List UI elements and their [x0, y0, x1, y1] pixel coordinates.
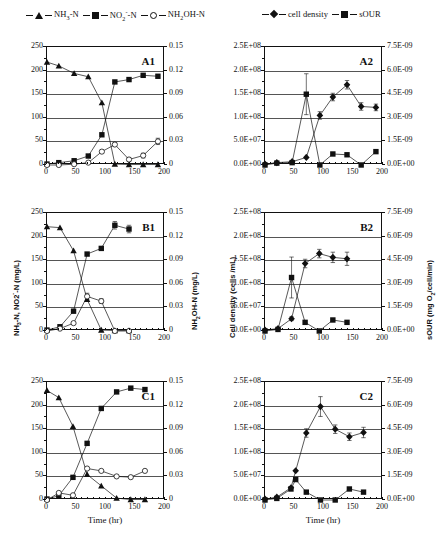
- y-tick-right: [164, 428, 167, 429]
- y-tick-right: [382, 164, 385, 165]
- y-tick-right: [382, 259, 385, 260]
- data-point: [86, 153, 91, 158]
- data-point: [358, 103, 365, 110]
- data-point: [85, 294, 90, 299]
- x-minor-tick: [111, 162, 112, 164]
- figure-root: NH3-NNO2--NNH2OH-N cell densitysOUR A105…: [0, 0, 443, 552]
- data-point: [44, 59, 50, 65]
- x-minor-tick: [129, 497, 130, 499]
- y-tick-label-right: 6.0E-09: [387, 232, 413, 240]
- data-point: [330, 317, 335, 322]
- legend-right-entry-sour: sOUR: [332, 9, 381, 19]
- data-point: [344, 255, 351, 262]
- series-sour: [262, 477, 366, 503]
- y-tick-right: [164, 452, 167, 453]
- y-minor-tick-left: [44, 381, 46, 382]
- data-point: [317, 403, 324, 410]
- x-minor-tick: [117, 328, 118, 330]
- y-tick-label-right: 0.15: [169, 377, 183, 385]
- x-minor-tick: [270, 497, 271, 499]
- legend-label: cell density: [288, 9, 328, 19]
- y-tick-label-left: 0.0E+00: [217, 495, 261, 503]
- x-tick-label: 0: [251, 168, 277, 176]
- x-tick-label: 100: [92, 503, 118, 511]
- x-minor-tick: [317, 497, 318, 499]
- x-minor-tick: [364, 162, 365, 164]
- y-minor-tick-left: [44, 105, 46, 106]
- x-minor-tick: [152, 328, 153, 330]
- x-minor-tick: [270, 162, 271, 164]
- y-minor-tick-left: [44, 212, 46, 213]
- x-minor-tick: [146, 162, 147, 164]
- y-tick-label-right: 1.5E-09: [387, 471, 413, 479]
- y-minor-tick-left: [262, 236, 264, 237]
- x-tick-label: 50: [63, 503, 89, 511]
- y-tick-label-left: 250: [0, 377, 43, 385]
- triangle-marker-icon: [35, 12, 43, 19]
- y-tick-right: [164, 330, 167, 331]
- x-minor-tick: [140, 162, 141, 164]
- y-tick-label-left: 100: [0, 448, 43, 456]
- data-point: [85, 466, 90, 471]
- y-minor-tick-left: [262, 164, 264, 165]
- y-tick-label-right: 0.06: [169, 113, 183, 121]
- x-tick-label: 50: [63, 334, 89, 342]
- y-tick-right: [164, 499, 167, 500]
- y-minor-tick-left: [262, 487, 264, 488]
- x-minor-tick: [58, 497, 59, 499]
- x-minor-tick: [323, 162, 324, 164]
- y-tick-label-left: 200: [0, 66, 43, 74]
- x-tick-label: 0: [33, 503, 59, 511]
- legend-label: NH2OH-N: [168, 9, 205, 21]
- y-tick-label-left: 2.0E+08: [217, 232, 261, 240]
- x-minor-tick: [52, 497, 53, 499]
- x-minor-tick: [135, 328, 136, 330]
- y-tick-label-left: 1.5E+08: [217, 424, 261, 432]
- data-point: [347, 486, 352, 491]
- plot-area-A2: A2: [264, 46, 382, 164]
- y-tick-right: [164, 475, 167, 476]
- x-minor-tick: [46, 497, 47, 499]
- y-minor-tick-left: [262, 452, 264, 453]
- x-minor-tick: [335, 162, 336, 164]
- y-tick-label-right: 0.09: [169, 424, 183, 432]
- x-minor-tick: [370, 162, 371, 164]
- panel-label-B2: B2: [360, 221, 373, 233]
- x-axis-title-right: Time (hr): [243, 515, 403, 525]
- x-minor-tick: [358, 328, 359, 330]
- x-minor-tick: [311, 328, 312, 330]
- x-minor-tick: [152, 497, 153, 499]
- legend-line: [83, 15, 90, 16]
- x-minor-tick: [164, 162, 165, 164]
- y-tick-label-left: 100: [0, 113, 43, 121]
- x-minor-tick: [282, 162, 283, 164]
- y-minor-tick-left: [262, 224, 264, 225]
- y-tick-right: [164, 140, 167, 141]
- y-minor-tick-left: [44, 306, 46, 307]
- y-tick-label-left: 1.0E+08: [217, 448, 261, 456]
- x-axis-title-left: Time (hr): [25, 515, 185, 525]
- x-minor-tick: [288, 162, 289, 164]
- x-minor-tick: [358, 162, 359, 164]
- x-minor-tick: [99, 328, 100, 330]
- data-point: [112, 142, 117, 147]
- x-minor-tick: [376, 162, 377, 164]
- y-tick-label-right: 4.5E-09: [387, 255, 413, 263]
- y-tick-label-right: 7.5E-09: [387, 377, 413, 385]
- data-point: [292, 467, 299, 474]
- x-minor-tick: [382, 328, 383, 330]
- y-minor-tick-left: [262, 140, 264, 141]
- y-tick-label-right: 0.06: [169, 279, 183, 287]
- x-minor-tick: [46, 328, 47, 330]
- y-tick-label-left: 0.0E+00: [217, 326, 261, 334]
- x-minor-tick: [105, 328, 106, 330]
- data-point: [56, 63, 62, 69]
- x-minor-tick: [129, 328, 130, 330]
- x-minor-tick: [311, 162, 312, 164]
- x-minor-tick: [364, 497, 365, 499]
- y-tick-label-left: 1.5E+08: [217, 89, 261, 97]
- data-point: [114, 389, 119, 394]
- y-tick-right: [164, 259, 167, 260]
- axis-title-right-primary: Cell density (cells /mL): [228, 257, 237, 338]
- y-minor-tick-left: [44, 271, 46, 272]
